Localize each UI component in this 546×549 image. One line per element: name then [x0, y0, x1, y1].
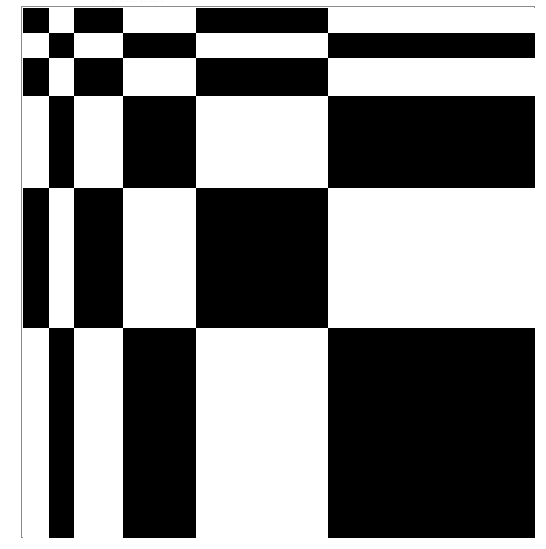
- grid-cell: [49, 188, 74, 328]
- grid-cell: [328, 96, 535, 188]
- grid-cell: [123, 96, 196, 188]
- grid-cell: [74, 188, 123, 328]
- grid-cell: [196, 33, 328, 58]
- grid-cell: [23, 58, 49, 96]
- grid-cell: [328, 33, 535, 58]
- grid-cell: [74, 8, 123, 33]
- grid-cell: [123, 58, 196, 96]
- grid-cell: [328, 328, 535, 538]
- grid-cell: [49, 58, 74, 96]
- grid-cell: [328, 58, 535, 96]
- grid-cell: [49, 8, 74, 33]
- grid-cell: [23, 96, 49, 188]
- grid-cell: [74, 58, 123, 96]
- grid-cell: [123, 328, 196, 538]
- grid-cell: [196, 188, 328, 328]
- grid-cell: [196, 328, 328, 538]
- grid-cell: [196, 8, 328, 33]
- checkerboard-frame: [21, 6, 535, 538]
- grid-cell: [74, 33, 123, 58]
- grid-cell: [23, 328, 49, 538]
- grid-cell: [328, 8, 535, 33]
- grid-cell: [23, 8, 49, 33]
- grid-cell: [49, 96, 74, 188]
- grid-cell: [49, 33, 74, 58]
- grid-cell: [23, 33, 49, 58]
- grid-cell: [123, 8, 196, 33]
- checkerboard-grid: [22, 7, 534, 537]
- grid-cell: [123, 33, 196, 58]
- grid-cell: [196, 58, 328, 96]
- grid-cell: [328, 188, 535, 328]
- grid-cell: [23, 188, 49, 328]
- grid-cell: [196, 96, 328, 188]
- grid-cell: [49, 328, 74, 538]
- grid-cell: [74, 328, 123, 538]
- grid-cell: [74, 96, 123, 188]
- figure-root: · · ··· ·· ·· ·: [0, 0, 546, 549]
- grid-cell: [123, 188, 196, 328]
